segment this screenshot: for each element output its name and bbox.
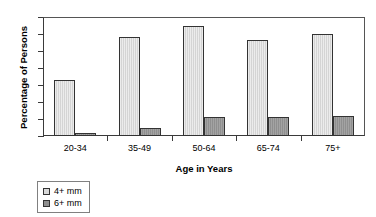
bar-75plus-series0 bbox=[312, 34, 333, 136]
bar-75plus-series1 bbox=[333, 116, 354, 136]
x-tick-mark bbox=[107, 136, 108, 141]
bar-65-74-series1 bbox=[268, 117, 289, 136]
bar-35-49-series0 bbox=[119, 37, 140, 136]
bar-50-64-series0 bbox=[183, 26, 204, 137]
bar-35-49-series1 bbox=[140, 128, 161, 136]
legend-swatch-icon-4mm bbox=[43, 188, 50, 195]
bar-20-34-series1 bbox=[75, 133, 96, 136]
y-axis-title: Percentage of Persons bbox=[18, 3, 29, 153]
x-category-label: 20-34 bbox=[43, 143, 107, 153]
legend-item-0[interactable]: 4+ mm bbox=[43, 185, 82, 197]
x-tick-mark bbox=[236, 136, 237, 141]
chart-legend: 4+ mm 6+ mm bbox=[37, 181, 90, 213]
x-category-label: 65-74 bbox=[236, 143, 300, 153]
bar-20-34-series0 bbox=[54, 80, 75, 136]
bar-chart: Percentage of Persons 02468101214 20-343… bbox=[0, 0, 376, 217]
bar-65-74-series0 bbox=[247, 40, 268, 136]
legend-swatch-icon-6mm bbox=[43, 200, 50, 207]
x-category-label: 35-49 bbox=[107, 143, 171, 153]
x-category-label: 75+ bbox=[301, 143, 365, 153]
x-axis-title: Age in Years bbox=[43, 163, 365, 174]
bar-50-64-series1 bbox=[204, 117, 225, 136]
x-tick-mark bbox=[172, 136, 173, 141]
legend-label-0: 4+ mm bbox=[54, 186, 82, 196]
x-category-label: 50-64 bbox=[172, 143, 236, 153]
x-tick-mark bbox=[301, 136, 302, 141]
legend-label-1: 6+ mm bbox=[54, 198, 82, 208]
legend-item-1[interactable]: 6+ mm bbox=[43, 197, 82, 209]
y-tick-mark bbox=[38, 136, 44, 137]
